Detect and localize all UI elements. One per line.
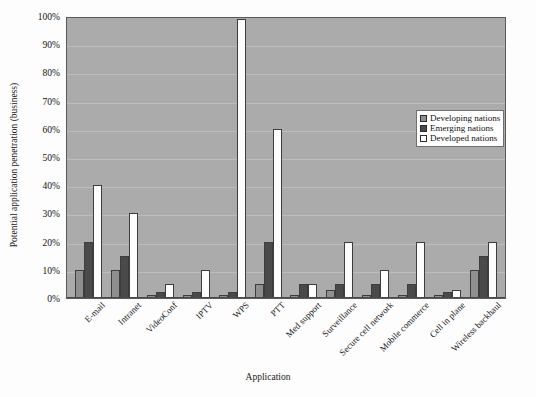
bar-group [143, 18, 179, 298]
y-axis-tick-label: 0% [47, 294, 60, 304]
y-axis-tick-label: 50% [43, 153, 60, 163]
bar[interactable] [129, 213, 138, 298]
bar[interactable] [264, 242, 273, 298]
bar[interactable] [344, 242, 353, 298]
y-axis-tick-label: 60% [43, 125, 60, 135]
y-axis-tick-label: 80% [43, 68, 60, 78]
bar[interactable] [201, 270, 210, 298]
bar-group [178, 18, 214, 298]
bar[interactable] [111, 270, 120, 298]
y-axis-ticks: 0%10%20%30%40%50%60%70%80%90%100% [22, 17, 64, 299]
bar[interactable] [255, 284, 264, 298]
x-axis-title: Application [0, 372, 536, 382]
legend-swatch-icon [420, 115, 427, 122]
x-axis-tick-label: Intranet [116, 300, 143, 327]
x-axis-tick-label: WPS [231, 300, 251, 320]
legend-label: Developed nations [430, 133, 497, 143]
bar-group [393, 18, 429, 298]
bar[interactable] [308, 284, 317, 298]
legend-swatch-icon [420, 125, 427, 132]
y-axis-tick-label: 40% [43, 181, 60, 191]
bar-group [322, 18, 358, 298]
bar[interactable] [120, 256, 129, 298]
y-axis-tick-label: 90% [43, 40, 60, 50]
bar-group [214, 18, 250, 298]
legend-item[interactable]: Developed nations [420, 133, 500, 143]
bar[interactable] [479, 256, 488, 298]
legend-label: Developing nations [430, 113, 500, 123]
legend-swatch-icon [420, 135, 427, 142]
bar[interactable] [335, 284, 344, 298]
bar[interactable] [416, 242, 425, 298]
bar[interactable] [488, 242, 497, 298]
bar-group [358, 18, 394, 298]
bar[interactable] [371, 284, 380, 298]
bar[interactable] [273, 129, 282, 298]
x-axis-tick-label: Med support [284, 300, 323, 339]
bar-chart: Potential application penetration (busin… [0, 0, 536, 397]
bar[interactable] [470, 270, 479, 298]
bar-groups [67, 18, 505, 298]
bar[interactable] [237, 19, 246, 298]
y-axis-tick-label: 20% [43, 238, 60, 248]
y-axis-title: Potential application penetration (busin… [6, 0, 22, 330]
plot-area [66, 17, 506, 299]
bar-group [429, 18, 465, 298]
x-axis-ticks: E-mailIntranetVideoConfIPTVWPSPTTMed sup… [66, 300, 506, 366]
legend-label: Emerging nations [430, 123, 494, 133]
bar[interactable] [407, 284, 416, 298]
bar-group [107, 18, 143, 298]
legend-item[interactable]: Developing nations [420, 113, 500, 123]
y-axis-tick-label: 30% [43, 209, 60, 219]
legend: Developing nationsEmerging nationsDevelo… [416, 110, 504, 147]
bar[interactable] [165, 284, 174, 298]
x-axis-tick-label: E-mail [83, 300, 107, 324]
x-axis-tick-label: VideoConf [144, 300, 179, 335]
bar[interactable] [299, 284, 308, 298]
x-axis-tick-label: IPTV [194, 300, 215, 321]
y-axis-tick-label: 70% [43, 97, 60, 107]
y-axis-title-text: Potential application penetration (busin… [9, 83, 19, 247]
y-axis-tick-label: 10% [43, 266, 60, 276]
y-axis-tick-label: 100% [38, 12, 60, 22]
bar-group [465, 18, 501, 298]
bar-group [71, 18, 107, 298]
bar[interactable] [75, 270, 84, 298]
x-axis-line [67, 297, 505, 298]
bar[interactable] [93, 185, 102, 298]
bar-group [250, 18, 286, 298]
bar[interactable] [84, 242, 93, 298]
x-axis-tick-label: PTT [269, 300, 287, 318]
bar[interactable] [380, 270, 389, 298]
legend-item[interactable]: Emerging nations [420, 123, 500, 133]
bar-group [286, 18, 322, 298]
